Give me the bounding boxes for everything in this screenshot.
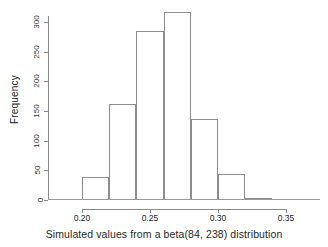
x-axis-line: [82, 209, 286, 210]
y-axis-tick-label: 100: [30, 137, 43, 145]
histogram-bar: [218, 174, 245, 200]
y-axis-tick: [44, 141, 48, 142]
y-axis-tick-label: 0: [39, 196, 43, 204]
x-axis-tick-label: 0.30: [210, 214, 227, 223]
histogram-bar: [191, 119, 218, 200]
y-axis-tick: [44, 81, 48, 82]
y-axis-tick-label: 200: [30, 77, 43, 85]
baseline-rule: [48, 199, 320, 200]
x-axis-tick-label: 0.25: [142, 214, 159, 223]
y-axis-tick: [44, 111, 48, 112]
plot-area: 050100150200250300: [48, 10, 320, 200]
y-axis-tick-label: 300: [30, 18, 43, 26]
histogram-chart: Frequency 050100150200250300 0.200.250.3…: [0, 0, 328, 247]
y-axis-tick: [44, 170, 48, 171]
x-axis-title: Simulated values from a beta(84, 238) di…: [0, 228, 328, 240]
histogram-bar: [82, 177, 109, 200]
histogram-bar: [136, 31, 163, 200]
y-axis-tick-label: 50: [34, 166, 43, 174]
x-axis-tick-label: 0.20: [74, 214, 91, 223]
y-axis-tick: [44, 52, 48, 53]
x-axis: 0.200.250.300.35: [48, 209, 320, 227]
y-axis-tick-label: 250: [30, 48, 43, 56]
bars-group: [48, 10, 320, 200]
y-axis-title: Frequency: [6, 0, 24, 199]
histogram-bar: [164, 12, 191, 200]
x-axis-tick-label: 0.35: [278, 214, 295, 223]
y-axis-title-text: Frequency: [10, 75, 21, 124]
y-axis-tick-label: 150: [30, 107, 43, 115]
histogram-bar: [109, 104, 136, 200]
y-axis-tick: [44, 22, 48, 23]
